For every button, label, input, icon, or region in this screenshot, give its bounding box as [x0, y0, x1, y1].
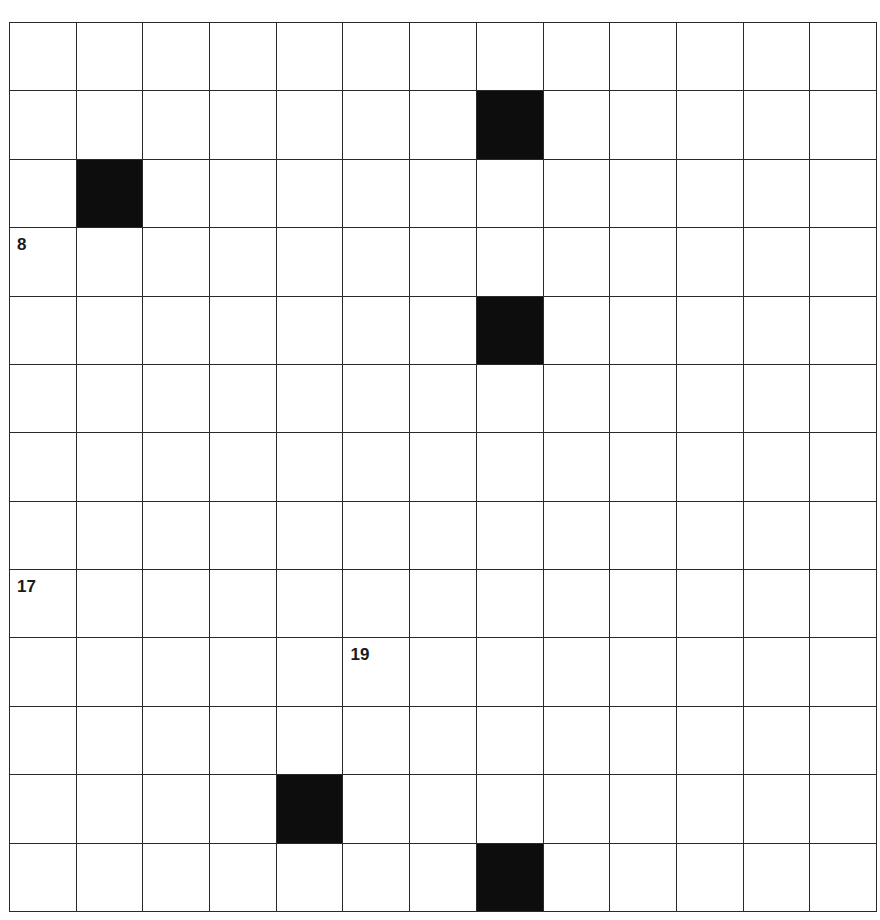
grid-cell[interactable]	[77, 365, 144, 433]
grid-cell[interactable]	[810, 91, 877, 159]
grid-cell[interactable]	[10, 160, 77, 228]
grid-cell[interactable]	[410, 707, 477, 775]
grid-cell[interactable]	[610, 91, 677, 159]
grid-cell[interactable]	[677, 844, 744, 912]
grid-cell[interactable]	[544, 638, 611, 706]
grid-cell[interactable]	[143, 638, 210, 706]
grid-cell[interactable]	[544, 160, 611, 228]
grid-cell[interactable]	[410, 775, 477, 843]
grid-cell[interactable]	[143, 91, 210, 159]
grid-cell[interactable]	[677, 228, 744, 296]
grid-cell[interactable]	[410, 91, 477, 159]
grid-cell[interactable]	[10, 638, 77, 706]
grid-cell[interactable]	[477, 502, 544, 570]
grid-cell[interactable]	[677, 23, 744, 91]
grid-cell[interactable]	[677, 570, 744, 638]
grid-cell[interactable]	[277, 570, 344, 638]
grid-cell[interactable]	[544, 707, 611, 775]
grid-cell[interactable]	[544, 91, 611, 159]
grid-cell[interactable]	[343, 502, 410, 570]
grid-cell[interactable]	[810, 433, 877, 501]
grid-cell[interactable]	[610, 502, 677, 570]
grid-cell[interactable]	[477, 228, 544, 296]
grid-cell[interactable]	[143, 160, 210, 228]
grid-cell[interactable]	[810, 502, 877, 570]
grid-cell[interactable]	[277, 365, 344, 433]
grid-cell[interactable]	[77, 775, 144, 843]
grid-cell[interactable]	[410, 502, 477, 570]
grid-cell[interactable]	[343, 775, 410, 843]
grid-cell[interactable]	[277, 502, 344, 570]
grid-cell[interactable]	[544, 365, 611, 433]
grid-cell[interactable]	[210, 844, 277, 912]
grid-cell[interactable]	[810, 775, 877, 843]
grid-cell[interactable]	[10, 91, 77, 159]
grid-cell[interactable]	[544, 228, 611, 296]
grid-cell[interactable]	[210, 91, 277, 159]
grid-cell[interactable]	[610, 570, 677, 638]
grid-cell[interactable]	[410, 365, 477, 433]
grid-cell[interactable]	[143, 844, 210, 912]
grid-cell[interactable]	[544, 433, 611, 501]
grid-cell[interactable]	[77, 297, 144, 365]
grid-cell[interactable]	[143, 23, 210, 91]
grid-cell[interactable]	[210, 365, 277, 433]
grid-cell[interactable]	[677, 775, 744, 843]
grid-cell[interactable]	[143, 228, 210, 296]
grid-cell[interactable]	[744, 91, 811, 159]
grid-cell[interactable]	[77, 570, 144, 638]
grid-cell[interactable]	[10, 23, 77, 91]
grid-cell[interactable]	[544, 570, 611, 638]
grid-cell[interactable]	[477, 638, 544, 706]
grid-cell[interactable]	[77, 91, 144, 159]
grid-cell[interactable]	[477, 160, 544, 228]
grid-cell[interactable]	[744, 365, 811, 433]
grid-cell[interactable]	[143, 707, 210, 775]
grid-cell[interactable]	[77, 707, 144, 775]
grid-cell[interactable]	[610, 775, 677, 843]
grid-cell[interactable]	[343, 91, 410, 159]
grid-cell[interactable]	[744, 570, 811, 638]
grid-cell[interactable]	[277, 91, 344, 159]
grid-cell[interactable]	[744, 228, 811, 296]
grid-cell[interactable]	[744, 297, 811, 365]
grid-cell[interactable]: 19	[343, 638, 410, 706]
grid-cell[interactable]	[277, 297, 344, 365]
grid-cell[interactable]	[10, 297, 77, 365]
grid-cell[interactable]	[810, 570, 877, 638]
grid-cell[interactable]	[277, 844, 344, 912]
grid-cell[interactable]	[477, 433, 544, 501]
grid-cell[interactable]	[610, 160, 677, 228]
grid-cell[interactable]	[677, 707, 744, 775]
grid-cell[interactable]	[544, 23, 611, 91]
grid-cell[interactable]	[143, 502, 210, 570]
grid-cell[interactable]	[343, 297, 410, 365]
grid-cell[interactable]	[343, 160, 410, 228]
grid-cell[interactable]	[744, 638, 811, 706]
grid-cell[interactable]	[744, 707, 811, 775]
grid-cell[interactable]	[744, 433, 811, 501]
grid-cell[interactable]	[277, 707, 344, 775]
grid-cell[interactable]	[343, 707, 410, 775]
grid-cell[interactable]	[277, 433, 344, 501]
grid-cell[interactable]: 17	[10, 570, 77, 638]
grid-cell[interactable]	[10, 433, 77, 501]
grid-cell[interactable]	[210, 638, 277, 706]
grid-cell[interactable]	[610, 365, 677, 433]
grid-cell[interactable]	[610, 707, 677, 775]
grid-cell[interactable]	[343, 23, 410, 91]
grid-cell[interactable]	[277, 228, 344, 296]
grid-cell[interactable]	[810, 228, 877, 296]
grid-cell[interactable]	[10, 502, 77, 570]
grid-cell[interactable]	[410, 570, 477, 638]
grid-cell[interactable]	[744, 775, 811, 843]
grid-cell[interactable]	[77, 844, 144, 912]
grid-cell[interactable]	[610, 228, 677, 296]
grid-cell[interactable]	[610, 297, 677, 365]
grid-cell[interactable]	[677, 91, 744, 159]
grid-cell[interactable]	[210, 502, 277, 570]
grid-cell[interactable]	[810, 638, 877, 706]
grid-cell[interactable]	[277, 638, 344, 706]
grid-cell[interactable]	[477, 707, 544, 775]
grid-cell[interactable]	[77, 502, 144, 570]
